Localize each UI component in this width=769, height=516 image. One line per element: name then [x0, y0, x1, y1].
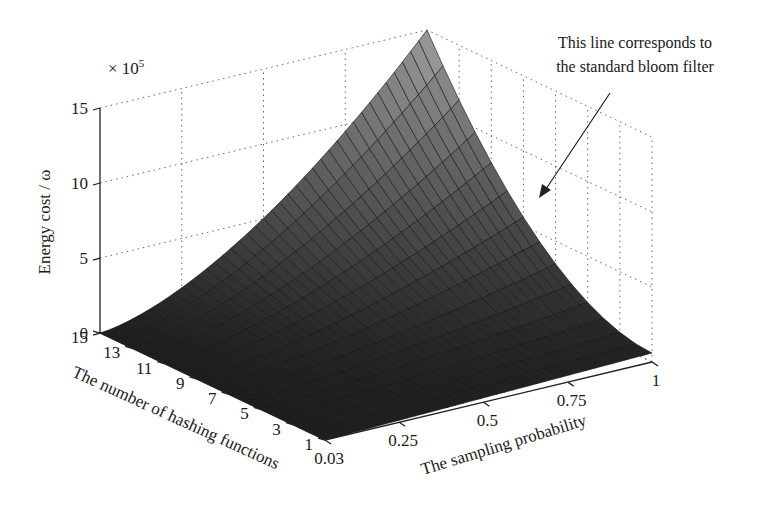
annotation-line-1: This line corresponds to: [558, 34, 712, 52]
surface-chart: × 105 051015 13579111315 0.030.250.50.75…: [0, 0, 769, 516]
arrow-head-icon: [539, 184, 551, 198]
z-axis-label: Energy cost / ω: [35, 170, 54, 275]
annotation-arrow: [544, 93, 610, 192]
y-tick: 5: [240, 404, 249, 423]
z-tick-labels: 051015: [71, 99, 88, 343]
y-tick: 1: [305, 435, 314, 454]
x-tick: 0.75: [557, 391, 587, 410]
z-tick: 5: [80, 249, 89, 268]
x-axis-label: The sampling probability: [419, 410, 589, 479]
annotation: This line corresponds to the standard bl…: [539, 34, 715, 198]
y-tick: 15: [71, 328, 88, 347]
annotation-line-2: the standard bloom filter: [556, 58, 714, 75]
x-tick: 0.03: [314, 449, 344, 468]
y-tick: 13: [103, 343, 120, 362]
z-multiplier: × 105: [108, 57, 145, 78]
x-tick: 1: [652, 371, 661, 390]
y-tick: 3: [272, 420, 281, 439]
y-tick: 7: [208, 389, 217, 408]
y-tick: 9: [176, 374, 185, 393]
z-tick: 10: [71, 174, 88, 193]
z-tick: 15: [71, 99, 88, 118]
y-tick: 11: [136, 359, 152, 378]
x-tick: 0.5: [477, 411, 498, 430]
x-tick: 0.25: [388, 431, 418, 450]
